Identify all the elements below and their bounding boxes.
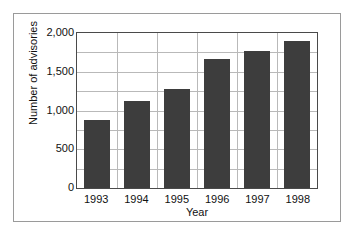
chart-figure: Number of advisories 05001,0001,5002,000…	[13, 13, 341, 222]
y-axis-tick-label: 0	[34, 181, 74, 193]
y-axis-tick-labels: 05001,0001,5002,000	[34, 25, 74, 201]
bar-slot	[237, 33, 277, 188]
bar-series	[77, 33, 317, 188]
x-axis-tick-label: 1996	[197, 191, 237, 207]
bar-slot	[277, 33, 317, 188]
bar-1996[interactable]	[204, 59, 230, 188]
bar-slot	[117, 33, 157, 188]
bar-1998[interactable]	[284, 41, 310, 188]
bar-slot	[197, 33, 237, 188]
y-axis-tick-label: 2,000	[34, 26, 74, 38]
y-axis-tick-label: 1,500	[34, 65, 74, 77]
x-axis-tick-label: 1995	[157, 191, 197, 207]
y-axis-tick-label: 1,000	[34, 104, 74, 116]
plot-area	[76, 32, 318, 189]
bar-slot	[77, 33, 117, 188]
bar-1997[interactable]	[244, 51, 270, 188]
bar-slot	[157, 33, 197, 188]
bar-1994[interactable]	[124, 101, 150, 188]
x-axis-title: Year	[76, 206, 318, 218]
x-axis-tick-label: 1993	[76, 191, 116, 207]
x-axis-tick-labels: 199319941995199619971998	[76, 191, 318, 207]
bar-1995[interactable]	[164, 89, 190, 188]
x-axis-tick-label: 1997	[237, 191, 277, 207]
x-axis-tick-label: 1998	[278, 191, 318, 207]
bar-1993[interactable]	[84, 120, 110, 188]
y-axis-tick-label: 500	[34, 142, 74, 154]
x-axis-tick-label: 1994	[116, 191, 156, 207]
